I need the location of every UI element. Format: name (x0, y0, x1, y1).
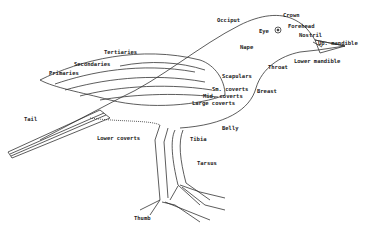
label-nape: Nape (240, 45, 253, 51)
label-scapulars: Scapulars (222, 74, 252, 80)
label-belly: Belly (222, 126, 239, 132)
label-tibia: Tibia (190, 137, 207, 143)
label-secondaries: Secondaries (74, 62, 110, 68)
label-primaries: Primaries (49, 71, 79, 77)
label-eye: Eye (259, 29, 269, 35)
label-tarsus: Tarsus (197, 161, 217, 167)
label-mid-coverts: Mid. coverts (203, 94, 243, 100)
label-breast: Breast (257, 89, 277, 95)
label-tertiaries: Tertiaries (104, 50, 137, 56)
label-nostril: Nostril (299, 33, 322, 39)
label-sm-coverts: Sm. coverts (212, 87, 248, 93)
label-forehead: Forehead (288, 24, 315, 30)
bird-topography-diagram: Occiput Crown Forehead Eye Nostril Up. m… (0, 0, 366, 234)
label-lower-coverts: Lower coverts (97, 136, 140, 142)
label-thumb: Thumb (134, 216, 151, 222)
label-crown: Crown (283, 13, 300, 19)
label-up-mandible: Up. mandible (318, 41, 358, 47)
label-tail: Tail (24, 117, 37, 123)
label-lower-mandible: Lower mandible (294, 59, 340, 65)
label-large-coverts: Large coverts (192, 101, 235, 107)
label-occiput: Occiput (217, 18, 240, 24)
label-throat: Throat (268, 65, 288, 71)
